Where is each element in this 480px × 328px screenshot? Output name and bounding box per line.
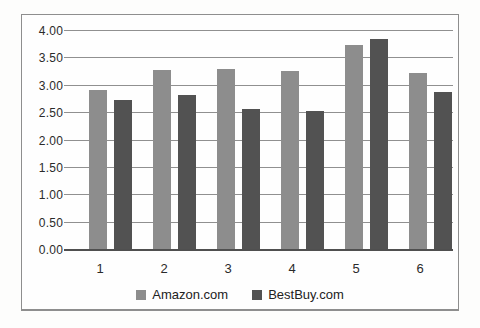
y-tick-label-2.50: 2.50 xyxy=(22,106,63,120)
plot-area xyxy=(68,31,452,250)
bar-chart: 0.000.501.001.502.002.503.003.504.00 123… xyxy=(21,14,459,311)
x-tick-label-2: 2 xyxy=(132,261,196,276)
y-tick-label-3.50: 3.50 xyxy=(22,51,63,65)
bar-bestbuy-com-cat4 xyxy=(306,111,324,250)
gridline-3.50 xyxy=(64,57,453,58)
y-tick-label-0.00: 0.00 xyxy=(22,243,63,257)
y-tick-label-1.00: 1.00 xyxy=(22,188,63,202)
y-tick-label-3.00: 3.00 xyxy=(22,79,63,93)
legend-swatch-amazon-icon xyxy=(136,290,146,300)
x-tick-label-6: 6 xyxy=(388,261,452,276)
bar-amazon-com-cat2 xyxy=(153,70,171,250)
bar-amazon-com-cat3 xyxy=(217,69,235,250)
legend-swatch-bestbuy-icon xyxy=(252,290,262,300)
x-tick-label-1: 1 xyxy=(68,261,132,276)
x-axis-line xyxy=(64,249,453,251)
x-tick-label-5: 5 xyxy=(324,261,388,276)
bar-bestbuy-com-cat2 xyxy=(178,95,196,250)
bar-bestbuy-com-cat6 xyxy=(434,92,452,250)
y-tick-label-2.00: 2.00 xyxy=(22,134,63,148)
bar-bestbuy-com-cat1 xyxy=(114,100,132,250)
y-tick-label-1.50: 1.50 xyxy=(22,161,63,175)
bar-bestbuy-com-cat5 xyxy=(370,39,388,250)
legend: Amazon.com BestBuy.com xyxy=(22,287,458,302)
bar-amazon-com-cat5 xyxy=(345,45,363,250)
x-tick-label-4: 4 xyxy=(260,261,324,276)
bar-amazon-com-cat6 xyxy=(409,73,427,250)
legend-item-bestbuy: BestBuy.com xyxy=(252,287,344,302)
bar-amazon-com-cat4 xyxy=(281,71,299,250)
legend-label-bestbuy: BestBuy.com xyxy=(268,287,344,302)
y-tick-label-0.50: 0.50 xyxy=(22,216,63,230)
x-tick-label-3: 3 xyxy=(196,261,260,276)
chart-screenshot: 0.000.501.001.502.002.503.003.504.00 123… xyxy=(0,0,480,328)
legend-label-amazon: Amazon.com xyxy=(152,287,228,302)
gridline-4.00 xyxy=(64,30,453,31)
legend-item-amazon: Amazon.com xyxy=(136,287,228,302)
gridline-3.00 xyxy=(64,85,453,86)
bar-bestbuy-com-cat3 xyxy=(242,109,260,250)
y-tick-label-4.00: 4.00 xyxy=(22,24,63,38)
bar-amazon-com-cat1 xyxy=(89,90,107,250)
